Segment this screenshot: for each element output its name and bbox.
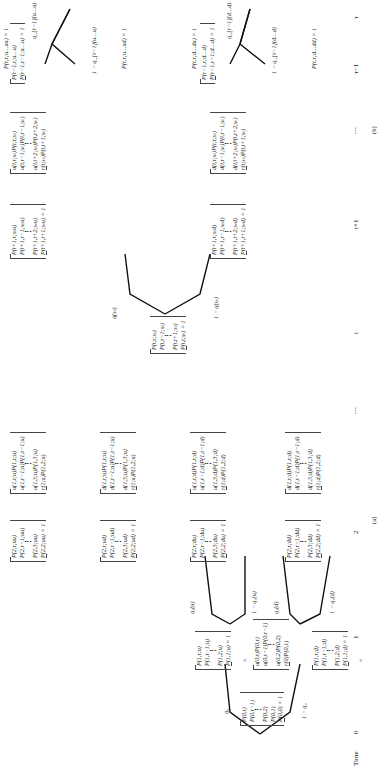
node-1u: P(1,τ;u) P(1,τ−1;u) ⋮ P(1,2;u) P(1,1;u) … [195,631,231,670]
time-tick: ⋯ [352,127,360,134]
node-t: P(t,τ;sₜ) P(t,τ−1;sₜ) ⋮ P(t,t+1;sₜ) P(t,… [150,316,186,354]
node-line: P(τ−1,τ;d…d) [200,27,208,80]
node-line: P(t+1,t+1;sₜd) = 1 [239,208,247,255]
eq-t1d: d(t,τ;sₜ)P(t,τ;sₜ) d(t,τ−1;sₜ)P(t,τ−1;sₜ… [210,112,246,174]
time-tick: τ−1 [352,64,360,74]
eq-2uu: u(1,τ;u)P(1,τ;u) u(1,τ−1;u)P(1,τ−1;u) ⋮ … [10,432,46,494]
label-1-q1u: 1 − q₁(u) [250,591,257,614]
time-tick: ⋯ [352,407,360,414]
node-line: P(2,τ;dd) [285,524,293,558]
node-line: P(2,3;ud) [121,524,129,558]
node-line: r(0)P(0,1) [282,623,290,666]
node-line: P(1,1;d) = 1 [341,635,349,666]
node-line: P(0,τ) [240,696,248,722]
node-line: d(1,τ;u)P(1,τ;u) [100,436,108,490]
node-line: P(t,τ;sₜ) [150,320,158,350]
node-line: P(t+1,τ;sₜu) [10,208,18,255]
node-line: P(2,2;du) = 1 [219,524,227,558]
node-line: d(t,τ;sₜ)P(t,τ;sₜ) [210,116,218,170]
node-line: P(2,τ;du) [190,524,198,558]
node-line: P(t+1,t+1;sₜu) = 1 [39,208,47,255]
node-line: r(t;sₜ)P(t,t+1;sₜ) [39,116,47,170]
node-line: r(t;sₜ)P(t,t+1;sₜ) [239,116,247,170]
equals-1d: = [358,659,364,662]
node-line: P(2,τ;uu) [10,524,18,558]
node-line: P(0,2) [261,696,269,722]
node-t1d: P(t+1,τ;sₜd) P(t+1,τ−1;sₜd) ⋮ P(t+1,t+2;… [210,204,246,259]
label-1-q0: 1 − q₀ [300,703,307,719]
node-line: r(1;u)P(1,2;u) [129,436,137,490]
node-line: P(1,2;d) [333,635,341,666]
caption-b: (b) [370,126,377,134]
node-line: P(t+1,t+2;sₜu) [31,208,39,255]
node-line: u(0,τ)P(0,τ) [253,623,261,666]
node-tau-1-bot: P(τ−1,τ;d…d) P(τ−1,τ−1;d…d) = 1 [200,23,215,84]
node-line: P(t,t;sₜ) = 1 [179,320,187,350]
node-line: P(1,2;u) [216,635,224,666]
node-line: P(2,3;uu) [31,524,39,558]
node-line: P(τ−1,τ−1;d…d) = 1 [208,27,216,80]
label-q0: q₀ [222,709,229,714]
node-line: P(1,1;u) = 1 [224,635,232,666]
node-line: u(t,τ;sₜ)P(t,τ;sₜ) [10,116,18,170]
node-line: P(t+1,τ;sₜd) [210,208,218,255]
label-q1d: q₁(d) [272,602,279,614]
leaf-uud: P(τ,τ;u…ud) = 1 [120,28,127,69]
leaf-uuu: P(τ,τ;u…uu) = 1 [2,28,9,69]
node-line: r(1;d)P(1,2;d) [219,436,227,490]
eq-t1u: u(t,τ;sₜ)P(t,τ;sₜ) u(t,τ−1;sₜ)P(t,τ−1;sₜ… [10,112,46,174]
label-q1u: q₁(u) [188,602,195,614]
node-line: d(1,3;u)P(1,3;u) [121,436,129,490]
node-line: P(0,1) [269,696,277,722]
node-tau-1-top: P(τ−1,τ;u…u) P(τ−1,τ−1;u…u) = 1 [10,23,25,84]
node-line: P(τ−1,τ;u…u) [10,27,18,80]
time-tick: 2 [352,531,360,535]
time-tick: 0 [352,731,360,735]
label-1-q-st: 1 − q(sₜ) [212,297,219,319]
eq-2ud: d(1,τ;u)P(1,τ;u) d(1,τ−1;u)P(1,τ−1;u) ⋮ … [100,432,136,494]
node-line: r(1;d)P(1,2;d) [314,436,322,490]
label-top-up: q_{τ−1}(u…u) [30,3,37,39]
node-line: P(2,2;ud) = 1 [129,524,137,558]
node-1d: P(1,τ;d) P(1,τ−1;d) ⋮ P(1,2;d) P(1,1;d) … [312,631,348,670]
eq-2du: u(1,τ;d)P(1,τ;d) u(1,τ−1;d)P(1,τ−1;d) ⋮ … [190,432,226,494]
node-2ud: P(2,τ;ud) P(2,τ−1;ud) ⋮ P(2,3;ud) P(2,2;… [100,520,136,562]
node-line: P(2,2;dd) = 1 [314,524,322,558]
node-line: u(1,3;u)P(1,3;u) [31,436,39,490]
node-2dd: P(2,τ;dd) P(2,τ−1;dd) ⋮ P(2,3;dd) P(2,2;… [285,520,321,562]
node-line: u(t,t+2;sₜ)P(t,t+2;sₜ) [31,116,39,170]
node-line: P(2,2;uu) = 1 [39,524,47,558]
time-axis-label: Time [352,751,360,766]
node-line: P(0,0) = 1 [276,696,284,722]
eq-2dd: d(1,τ;d)P(1,τ;d) d(1,τ−1;d)P(1,τ−1;d) ⋮ … [285,432,321,494]
node-t1u: P(t+1,τ;sₜu) P(t+1,τ−1;sₜu) ⋮ P(t+1,t+2;… [10,204,46,259]
node-line: P(t,t+1;sₜ) [171,320,179,350]
equals-1u: = [242,659,248,662]
time-tick: t+1 [352,220,360,229]
node-line: P(2,3;dd) [306,524,314,558]
node-line: u(1,τ;d)P(1,τ;d) [190,436,198,490]
time-tick: τ [352,16,360,19]
eq-1u: u(0,τ)P(0,τ) u(0,τ−1)P(0,τ−1) ⋮ u(0,2)P(… [253,619,289,670]
node-line: P(τ−1,τ−1;u…u) = 1 [18,27,26,80]
node-line: u(1,3;d)P(1,3;d) [211,436,219,490]
node-line: u(1,τ;u)P(1,τ;u) [10,436,18,490]
node-line: P(2,3;du) [211,524,219,558]
leaf-ddu: P(τ,τ;d…du) = 1 [190,28,197,69]
label-1-q1d: 1 − q₁(d) [328,591,335,614]
node-line: P(2,τ;ud) [100,524,108,558]
node-line: u(0,2)P(0,2) [274,623,282,666]
node-line: P(t+1,t+2;sₜd) [231,208,239,255]
node-2du: P(2,τ;du) P(2,τ−1;du) ⋮ P(2,3;du) P(2,2;… [190,520,226,562]
node-line: r(1;u)P(1,2;u) [39,436,47,490]
label-bot-down: 1 − q_{τ−1}(d…d) [270,27,277,74]
node-line: P(1,τ;u) [195,635,203,666]
caption-a: (a) [370,517,377,524]
node-root: P(0,τ) P(0,τ−1) ⋮ P(0,2) P(0,1) P(0,0) =… [240,692,284,726]
time-tick: 1 [352,636,360,640]
node-line: d(1,τ;d)P(1,τ;d) [285,436,293,490]
node-line: P(1,τ;d) [312,635,320,666]
leaf-ddd: P(τ,τ;d…dd) = 1 [310,28,317,69]
time-tick: t [352,332,360,334]
node-line: d(t,t+2;sₜ)P(t,t+2;sₜ) [231,116,239,170]
